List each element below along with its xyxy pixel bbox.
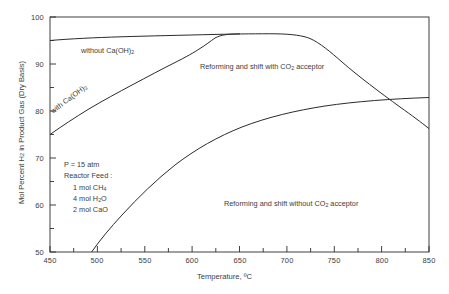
annotation-without-co2-acceptor: Reforming and shift without CO2 acceptor [224,200,358,208]
x-tick-label-600: 600 [177,256,207,265]
chart-figure: 100 90 80 70 60 50 450 500 550 600 650 7… [0,0,449,294]
x-tick-label-850: 850 [414,256,444,265]
y-axis-ticks [50,17,56,252]
y-axis-title: Mol Percent H2 in Product Gas (Dry Basis… [17,38,26,228]
x-tick-label-750: 750 [319,256,349,265]
x-axis-title: Temperature, ºC [0,272,449,281]
x-tick-label-800: 800 [367,256,397,265]
x-tick-label-650: 650 [225,256,255,265]
condition-feed-header: Reactor Feed : [64,170,112,181]
x-tick-label-700: 700 [272,256,302,265]
plot-canvas [0,0,449,294]
x-tick-label-450: 450 [35,256,65,265]
condition-pressure: P = 15 atm [64,159,112,170]
y-tick-label-100: 100 [20,13,44,22]
x-axis-ticks [50,246,429,252]
annotation-with-co2-acceptor: Reforming and shift with CO2 acceptor [200,63,324,71]
x-tick-label-550: 550 [130,256,160,265]
condition-feed-cao: 2 mol CaO [64,204,112,215]
x-tick-label-500: 500 [82,256,112,265]
series-without-co2-acceptor-line [92,98,429,253]
condition-feed-h2o: 4 mol H2O [64,193,112,204]
condition-feed-ch4: 1 mol CH4 [64,182,112,193]
conditions-block: P = 15 atm Reactor Feed : 1 mol CH4 4 mo… [64,159,112,215]
annotation-without-caoh2: without Ca(OH)2 [81,47,134,55]
